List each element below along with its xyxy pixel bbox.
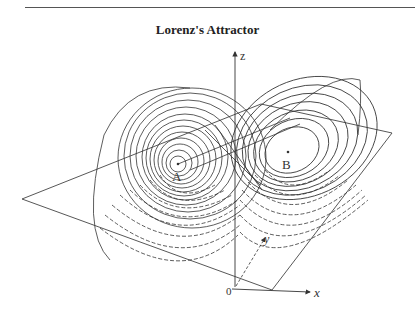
origin-label: 0 — [226, 285, 232, 297]
lobe-a-dashed — [100, 175, 240, 261]
x-axis-label: x — [313, 285, 320, 300]
y-axis-label: y — [263, 232, 270, 246]
point-a-label: A — [172, 169, 182, 184]
lobe-b-dashed — [240, 170, 368, 248]
y-axis — [236, 238, 265, 286]
lorenz-diagram: z x y 0 A B — [0, 0, 415, 314]
fixed-point-a-dot — [177, 163, 180, 166]
fixed-point-b-dot — [287, 151, 290, 154]
point-b-label: B — [282, 157, 291, 172]
lobe-b-solid — [211, 53, 398, 222]
z-axis-label: z — [240, 49, 245, 63]
